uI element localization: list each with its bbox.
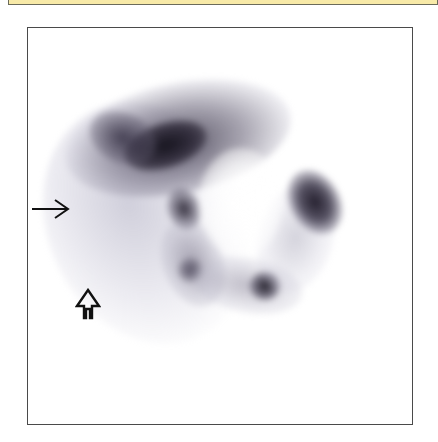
header-strip	[8, 0, 438, 5]
scan-image-frame	[27, 27, 413, 425]
photopenic-center	[198, 148, 283, 258]
solid-arrow-icon	[31, 198, 71, 220]
scan-image	[28, 28, 412, 424]
hollow-arrow-icon	[75, 288, 101, 320]
